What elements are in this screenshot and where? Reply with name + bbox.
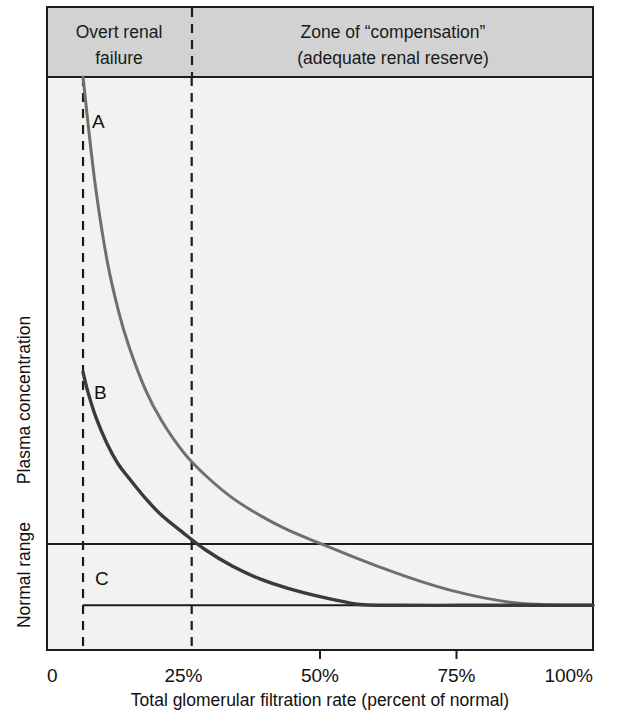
- x-tick-label-75pct: 75%: [437, 665, 475, 686]
- x-axis-title: Total glomerular filtration rate (percen…: [131, 690, 509, 710]
- x-tick-label-0: 0: [47, 665, 58, 686]
- x-tick-label-100pct: 100%: [544, 665, 593, 686]
- renal-function-chart: Overt renal failure Zone of “compensatio…: [0, 0, 627, 718]
- banner-left-zone-line1: Overt renal: [76, 22, 163, 42]
- x-axis-tick-labels: 025%50%75%100%: [47, 665, 593, 686]
- normal-range-label: Normal range: [14, 522, 34, 628]
- curve-a-label: A: [92, 111, 105, 132]
- curve-c-label: C: [95, 568, 109, 589]
- banner-left-zone-line2: failure: [95, 48, 143, 68]
- x-axis-ticks: [320, 650, 457, 659]
- banner-right-zone-line1: Zone of “compensation”: [301, 22, 486, 42]
- banner-right-zone-line2: (adequate renal reserve): [297, 48, 489, 68]
- chart-svg: Overt renal failure Zone of “compensatio…: [0, 0, 627, 718]
- y-axis-title: Plasma concentration: [14, 316, 34, 484]
- plot-background: [47, 77, 593, 650]
- x-tick-label-25pct: 25%: [164, 665, 202, 686]
- curve-b-label: B: [94, 382, 107, 403]
- x-tick-label-50pct: 50%: [301, 665, 339, 686]
